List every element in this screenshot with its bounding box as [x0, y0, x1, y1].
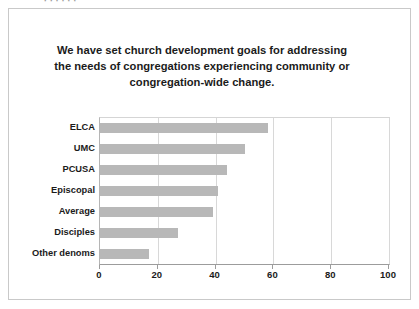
- x-tick-label: 0: [79, 269, 119, 280]
- category-label-other-denoms: Other denoms: [7, 248, 95, 258]
- x-tick-label: 40: [195, 269, 235, 280]
- bar-row: [100, 181, 389, 202]
- bar-chart: ELCAUMCPCUSAEpiscopalAverageDisciplesOth…: [0, 0, 419, 309]
- x-tick-label: 100: [368, 269, 408, 280]
- category-label-average: Average: [7, 206, 95, 216]
- bar: [100, 207, 213, 217]
- x-tick-label: 60: [252, 269, 292, 280]
- gridline: [389, 118, 390, 264]
- bar-row: [100, 201, 389, 222]
- x-tick-mark: [330, 265, 331, 269]
- x-tick-mark: [388, 265, 389, 269]
- value-axis-tick-labels: 020406080100: [0, 269, 419, 283]
- bar: [100, 165, 227, 175]
- category-label-pcusa: PCUSA: [7, 164, 95, 174]
- category-label-umc: UMC: [7, 143, 95, 153]
- x-tick-label: 80: [310, 269, 350, 280]
- bar: [100, 228, 178, 238]
- bar-row: [100, 243, 389, 264]
- bar-row: [100, 160, 389, 181]
- bar-row: [100, 118, 389, 139]
- category-axis-labels: ELCAUMCPCUSAEpiscopalAverageDisciplesOth…: [5, 117, 95, 265]
- bar: [100, 249, 149, 259]
- category-label-episcopal: Episcopal: [7, 185, 95, 195]
- x-tick-label: 20: [137, 269, 177, 280]
- bar: [100, 123, 268, 133]
- x-tick-mark: [215, 265, 216, 269]
- x-tick-mark: [157, 265, 158, 269]
- category-label-disciples: Disciples: [7, 227, 95, 237]
- plot-area: [99, 117, 390, 265]
- bar: [100, 186, 218, 196]
- bar: [100, 144, 245, 154]
- bar-series: [100, 118, 389, 264]
- category-label-elca: ELCA: [7, 122, 95, 132]
- x-tick-mark: [272, 265, 273, 269]
- bar-row: [100, 222, 389, 243]
- bar-row: [100, 139, 389, 160]
- x-tick-mark: [99, 265, 100, 269]
